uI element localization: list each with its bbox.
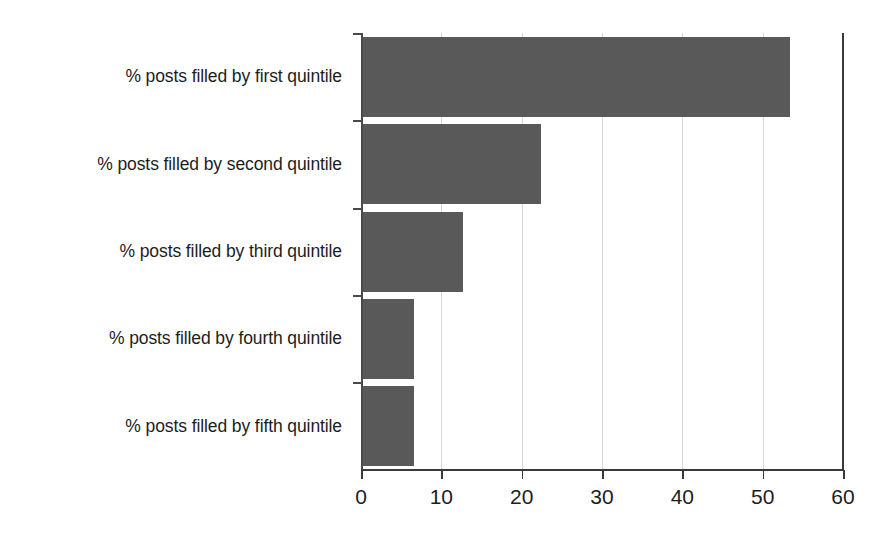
x-axis-ticks xyxy=(361,470,844,480)
x-axis-tick xyxy=(361,470,363,479)
plot-area xyxy=(361,33,843,470)
category-label: % posts filled by fourth quintile xyxy=(0,295,352,382)
plot-right-border xyxy=(842,33,844,470)
category-label: % posts filled by first quintile xyxy=(0,33,352,120)
bar-third-quintile xyxy=(361,212,463,292)
x-axis-tick xyxy=(682,470,684,479)
bar-row xyxy=(361,383,843,470)
x-axis-tick xyxy=(602,470,604,479)
category-label: % posts filled by third quintile xyxy=(0,208,352,295)
bar-row xyxy=(361,33,843,120)
x-axis-tick-label: 60 xyxy=(831,485,854,509)
x-axis-tick-label: 0 xyxy=(355,485,367,509)
x-axis-tick-label: 40 xyxy=(671,485,694,509)
bar-fourth-quintile xyxy=(361,299,414,379)
x-axis-tick-label: 30 xyxy=(590,485,613,509)
bar-series xyxy=(361,33,843,470)
y-axis-spine xyxy=(361,33,363,470)
x-axis-tick-label: 10 xyxy=(430,485,453,509)
bar-first-quintile xyxy=(361,37,790,117)
bar-chart-figure: % posts filled by first quintile % posts… xyxy=(0,0,888,541)
x-axis-tick xyxy=(843,470,845,479)
category-axis: % posts filled by first quintile % posts… xyxy=(0,33,352,470)
x-axis-tick-labels: 0102030405060 xyxy=(361,485,844,525)
category-label: % posts filled by second quintile xyxy=(0,120,352,207)
x-axis-tick xyxy=(763,470,765,479)
x-axis-tick xyxy=(522,470,524,479)
x-axis-tick-label: 50 xyxy=(751,485,774,509)
x-axis-tick-label: 20 xyxy=(510,485,533,509)
bar-row xyxy=(361,295,843,382)
bar-row xyxy=(361,208,843,295)
category-label: % posts filled by fifth quintile xyxy=(0,383,352,470)
bar-row xyxy=(361,120,843,207)
bar-second-quintile xyxy=(361,124,541,204)
x-axis-tick xyxy=(441,470,443,479)
bar-fifth-quintile xyxy=(361,386,414,466)
